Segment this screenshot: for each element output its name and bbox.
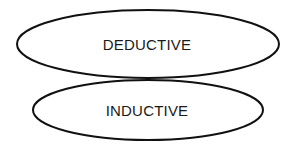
diagram-canvas: DEDUCTIVE INDUCTIVE xyxy=(0,0,294,155)
ellipse-label-deductive: DEDUCTIVE xyxy=(0,37,294,52)
diagram-svg xyxy=(0,0,294,155)
ellipse-label-inductive: INDUCTIVE xyxy=(0,103,294,118)
